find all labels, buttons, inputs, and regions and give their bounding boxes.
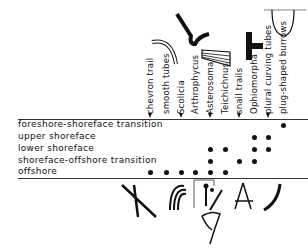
- occurrence-dot: [223, 147, 228, 152]
- curved-tube-illustration-icon: [262, 182, 284, 212]
- occurrence-dot: [208, 159, 213, 164]
- row-label-shoreface-offshore-transition: shoreface-offshore transition: [18, 155, 157, 165]
- column-label-chevron-trail: chevron trail: [145, 58, 155, 114]
- occurrence-dot: [193, 170, 198, 175]
- u-burrow-illustration-icon: [233, 181, 255, 211]
- column-label-arthrophycus: Arthrophycus: [190, 55, 200, 114]
- column-label-ophiomorpha: Ophiomorpha: [249, 54, 259, 114]
- arrow-icon: [208, 113, 212, 118]
- occurrence-dot: [164, 170, 169, 175]
- occurrence-dot: [266, 135, 271, 140]
- column-label-snail-trails: snail trails: [234, 68, 244, 114]
- column-label-plug-shaped-burrows: plug-shaped burrows: [278, 21, 288, 114]
- occurrence-dot: [252, 147, 257, 152]
- chevron-trail-illustration-icon: [120, 183, 160, 219]
- arrow-icon: [266, 113, 270, 118]
- row-label-lower-shoreface: lower shoreface: [18, 143, 94, 153]
- occurrence-dot: [266, 147, 271, 152]
- funnel-burrow-illustration-icon: [200, 210, 224, 246]
- occurrence-dot: [148, 170, 153, 175]
- column-label-teichichnus: Teichichnus: [220, 63, 230, 114]
- arrow-icon: [148, 113, 152, 118]
- diagram: chevron trail smooth tubes Scolicia Arth…: [0, 0, 308, 248]
- occurrence-dot: [208, 170, 213, 175]
- occurrence-dot: [208, 147, 213, 152]
- occurrence-dot: [252, 135, 257, 140]
- row-label-foreshore-shoreface-transition: foreshore-shoreface transition: [18, 119, 163, 129]
- occurrence-dot: [252, 159, 257, 164]
- smooth-tubes-illustration-icon: [168, 182, 188, 212]
- row-label-upper-shoreface: upper shoreface: [18, 131, 96, 141]
- column-label-smooth-tubes: smooth tubes: [161, 53, 171, 114]
- row-label-offshore: offshore: [18, 166, 57, 176]
- box-burrow-illustration-icon: [192, 178, 228, 214]
- arrow-icon: [237, 113, 241, 118]
- column-label-asterosoma: Asterosoma: [205, 62, 215, 114]
- column-label-plural-curving-tubes: plural curving tubes: [263, 25, 273, 114]
- occurrence-dot: [237, 159, 242, 164]
- occurrence-dot: [281, 123, 286, 128]
- bottom-divider: [18, 178, 308, 179]
- arrow-icon: [179, 113, 183, 118]
- column-label-scolicia: Scolicia: [176, 80, 186, 114]
- arthrophycus-illustration-icon: [175, 12, 215, 48]
- occurrence-dot: [179, 170, 184, 175]
- occurrence-dot: [223, 170, 228, 175]
